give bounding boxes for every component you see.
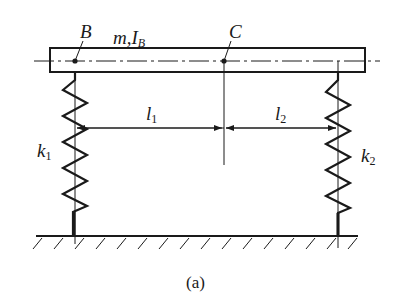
point-b-leader	[75, 41, 83, 61]
label-l1: l1	[146, 104, 157, 125]
point-c-leader	[224, 41, 231, 61]
figure-caption: (a)	[186, 274, 205, 291]
label-l2: l2	[275, 104, 286, 125]
label-point-c: C	[229, 22, 242, 41]
ground-hatching	[33, 238, 357, 249]
label-point-c-text: C	[229, 21, 242, 42]
label-mass-text: m,	[113, 27, 131, 48]
figure-caption-text: (a)	[186, 273, 205, 292]
label-l2-sub: 2	[280, 112, 286, 126]
label-k1: k1	[37, 141, 51, 162]
beam	[50, 48, 365, 72]
spring-mass-diagram	[0, 0, 411, 304]
label-mass-inertia: m,IB	[113, 28, 145, 49]
label-inertia-sub: B	[138, 36, 145, 50]
label-k2: k2	[361, 146, 375, 167]
label-l1-sub: 1	[151, 112, 157, 126]
label-k2-sub: 2	[369, 154, 375, 168]
label-point-b-text: B	[80, 21, 92, 42]
label-k1-sub: 1	[45, 149, 51, 163]
label-point-b: B	[80, 22, 92, 41]
